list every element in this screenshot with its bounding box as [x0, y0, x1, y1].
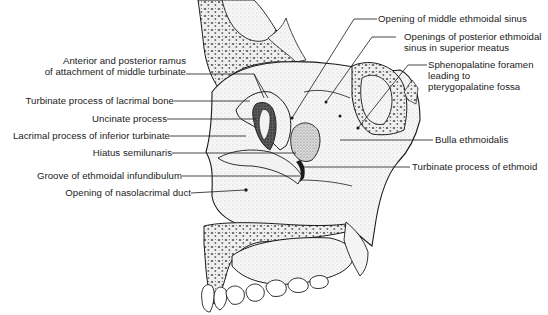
label-line: leading to	[428, 70, 534, 81]
label-opening-nasolacrimal-duct: Opening of nasolacrimal duct	[65, 187, 191, 198]
label-turbinate-process-ethmoid: Turbinate process of ethmoid	[412, 161, 537, 172]
label-opening-middle-ethmoidal-sinus: Opening of middle ethmoidal sinus	[378, 13, 527, 24]
label-line: sinus in superior meatus	[404, 42, 542, 53]
label-line: Anterior and posterior ramus	[45, 55, 186, 66]
label-line: Openings of posterior ethmoidal	[404, 31, 542, 42]
label-bulla-ethmoidalis: Bulla ethmoidalis	[435, 134, 508, 145]
label-hiatus-semilunaris: Hiatus semilunaris	[93, 147, 172, 158]
label-turbinate-process-lacrimal-bone: Turbinate process of lacrimal bone	[25, 95, 174, 106]
label-lacrimal-process-inferior-turbinate: Lacrimal process of inferior turbinate	[13, 130, 170, 141]
label-line: of attachment of middle turbinate	[45, 66, 186, 77]
label-openings-posterior-ethmoidal-sinus: Openings of posterior ethmoidal sinus in…	[404, 31, 542, 53]
label-groove-ethmoidal-infundibulum: Groove of ethmoidal infundibulum	[37, 170, 182, 181]
label-line: pterygopalatine fossa	[428, 81, 534, 92]
label-line: Sphenopalatine foramen	[428, 59, 534, 70]
bulla-ethmoidalis-shape	[291, 123, 320, 162]
label-uncinate-process: Uncinate process	[92, 113, 167, 124]
label-sphenopalatine-foramen: Sphenopalatine foramen leading to pteryg…	[428, 59, 534, 92]
anatomy-figure: Anterior and posterior ramus of attachme…	[0, 0, 548, 315]
label-anterior-posterior-ramus: Anterior and posterior ramus of attachme…	[45, 55, 186, 77]
